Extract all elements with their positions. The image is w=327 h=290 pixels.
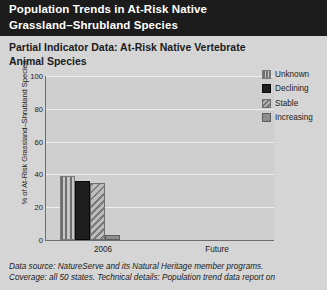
- legend-item-label: Stable: [275, 99, 298, 108]
- figure-subtitle: Partial Indicator Data: At-Risk Native V…: [9, 40, 309, 68]
- y-axis-tick-label: 100: [30, 72, 43, 81]
- footnote-line-2: Coverage: all 50 states. Technical detai…: [9, 273, 321, 284]
- legend-item-label: Unknown: [275, 70, 309, 79]
- vertical-stripe-swatch: [262, 70, 271, 79]
- y-axis-tick-label: 60: [35, 137, 43, 146]
- figure-title-line-1: Population Trends in At-Risk Native: [9, 2, 319, 18]
- diagonal-hatch-swatch: [262, 99, 271, 108]
- chart-figure: Population Trends in At-Risk Native Gras…: [0, 0, 327, 290]
- y-axis-tick-label: 0: [39, 236, 43, 245]
- bar-stable: [90, 183, 105, 240]
- figure-footnote: Data source: NatureServe and its Natural…: [9, 262, 321, 283]
- bar-declining: [75, 181, 90, 240]
- figure-title-line-2: Grassland–Shrubland Species: [9, 18, 319, 34]
- solid-gray-swatch: [262, 113, 271, 122]
- bar-group: Future: [160, 76, 274, 240]
- legend-item-increasing: Increasing: [262, 111, 326, 126]
- figure-subtitle-line-1: Partial Indicator Data: At-Risk Native V…: [9, 40, 309, 54]
- bar-stack: [60, 76, 120, 240]
- legend-item-stable: Stable: [262, 96, 326, 111]
- plot-canvas: 0204060801002006Future: [45, 76, 274, 241]
- y-axis-tick-label: 40: [35, 170, 43, 179]
- chart-legend: UnknownDecliningStableIncreasing: [262, 67, 326, 125]
- y-axis-tick-label: 20: [35, 203, 43, 212]
- footnote-line-1: Data source: NatureServe and its Natural…: [9, 262, 321, 273]
- figure-title: Population Trends in At-Risk Native Gras…: [9, 2, 319, 33]
- figure-subtitle-line-2: Animal Species: [9, 54, 309, 68]
- legend-item-declining: Declining: [262, 82, 326, 97]
- legend-item-label: Increasing: [275, 113, 313, 122]
- legend-item-label: Declining: [275, 84, 309, 93]
- y-axis-tick-label: 80: [35, 104, 43, 113]
- bar-group: 2006: [46, 76, 160, 240]
- figure-header-band: Population Trends in At-Risk Native Gras…: [0, 0, 327, 36]
- bar-increasing: [105, 235, 120, 240]
- legend-item-unknown: Unknown: [262, 67, 326, 82]
- bar-unknown: [60, 176, 75, 240]
- y-axis-label: % of At-Risk Grassland–Shrubland Species: [20, 53, 29, 213]
- solid-dark-swatch: [262, 84, 271, 93]
- x-axis-tick-label: Future: [205, 245, 229, 254]
- x-axis-tick-label: 2006: [94, 245, 112, 254]
